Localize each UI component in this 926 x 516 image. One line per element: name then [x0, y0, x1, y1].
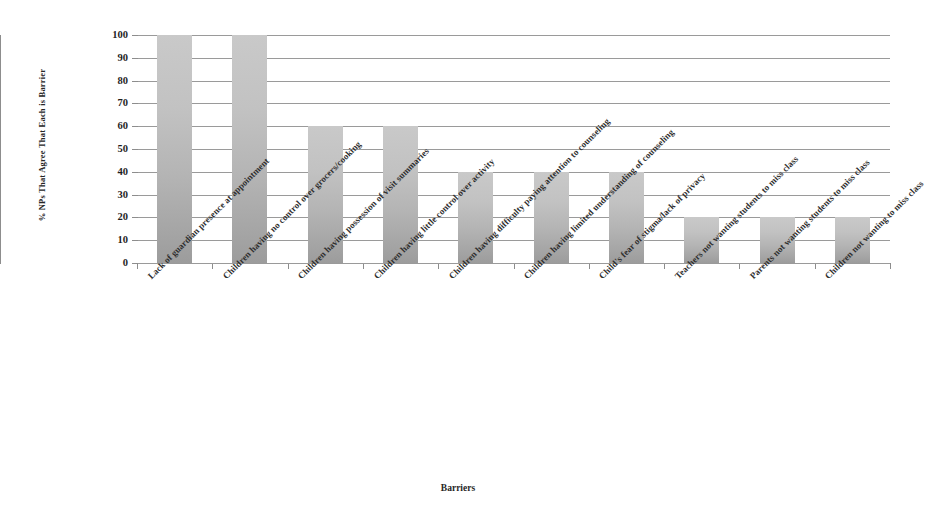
y-axis-tick-mark — [132, 149, 138, 150]
y-axis-tick-mark — [132, 240, 138, 241]
y-axis-tick-label: 100 — [92, 30, 128, 41]
x-axis-tick-mark — [212, 264, 213, 269]
bar — [232, 35, 267, 263]
plot-area — [137, 35, 890, 263]
y-axis-tick-mark — [132, 195, 138, 196]
x-axis-tick-mark — [664, 264, 665, 269]
x-axis-tick-mark — [815, 264, 816, 269]
y-axis-tick-label: 0 — [92, 258, 128, 269]
y-axis-tick-mark — [132, 81, 138, 82]
y-axis-tick-mark — [132, 58, 138, 59]
x-axis-tick-mark — [363, 264, 364, 269]
y-axis-tick-label: 10 — [92, 235, 128, 246]
x-axis-tick-mark — [890, 264, 891, 269]
y-axis-tick-label: 80 — [92, 76, 128, 87]
y-axis-tick-label: 20 — [92, 212, 128, 223]
x-axis-tick-mark — [288, 264, 289, 269]
x-axis-tick-mark — [739, 264, 740, 269]
y-axis-tick-mark — [132, 103, 138, 104]
y-axis-tick-label: 90 — [92, 53, 128, 64]
y-axis-tick-label: 50 — [92, 144, 128, 155]
y-axis-tick-mark — [132, 35, 138, 36]
y-axis-tick-label: 70 — [92, 98, 128, 109]
y-axis-tick-label: 60 — [92, 121, 128, 132]
y-axis-line — [0, 35, 1, 264]
y-axis-tick-labels: 0102030405060708090100 — [88, 0, 128, 280]
y-axis-tick-label: 30 — [92, 190, 128, 201]
x-axis-tick-mark — [589, 264, 590, 269]
x-axis-title: Barriers — [0, 483, 916, 493]
y-axis-title: % NPs That Agree That Each is Barrier — [37, 35, 47, 255]
y-axis-tick-mark — [132, 217, 138, 218]
x-axis-tick-mark — [438, 264, 439, 269]
x-axis-tick-mark — [514, 264, 515, 269]
y-axis-tick-mark — [132, 126, 138, 127]
bar — [157, 35, 192, 263]
y-axis-tick-mark — [132, 172, 138, 173]
x-axis-tick-mark — [137, 264, 138, 269]
y-axis-tick-label: 40 — [92, 167, 128, 178]
